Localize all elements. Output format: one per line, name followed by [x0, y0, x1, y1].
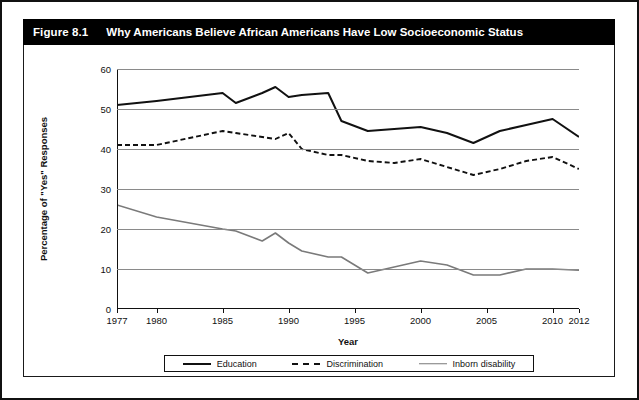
x-axis-tick-label: 2010 [542, 315, 563, 326]
y-axis-tick-label: 60 [100, 64, 111, 75]
x-axis-tick [157, 309, 158, 313]
x-axis-tick-label: 2005 [476, 315, 497, 326]
x-axis-title: Year [117, 336, 579, 347]
x-axis-tick [421, 309, 422, 313]
legend-line-icon [419, 359, 447, 369]
legend-item: Education [183, 359, 257, 369]
grid-line [117, 229, 579, 230]
y-axis-tick-label: 10 [100, 264, 111, 275]
x-axis-tick [289, 309, 290, 313]
x-axis-tick [223, 309, 224, 313]
grid-line [117, 69, 579, 70]
y-axis-tick-label: 30 [100, 184, 111, 195]
figure-title: Why Americans Believe African Americans … [106, 26, 523, 38]
x-axis-tick [355, 309, 356, 313]
grid-line [117, 109, 579, 110]
y-axis-tick-label: 40 [100, 144, 111, 155]
y-axis-tick-label: 0 [106, 304, 111, 315]
x-axis-tick-label: 1995 [344, 315, 365, 326]
figure-title-bar: Figure 8.1 Why Americans Believe African… [23, 19, 615, 45]
chart-legend: EducationDiscriminationInborn disability [164, 355, 534, 372]
x-axis-tick-label: 2000 [410, 315, 431, 326]
grid-line [117, 269, 579, 270]
chart-container: Percentage of "Yes" Responses 0102030405… [23, 45, 615, 377]
x-axis-tick [579, 309, 580, 313]
legend-line-icon [292, 359, 320, 369]
legend-item: Inborn disability [419, 359, 516, 369]
y-axis-title: Percentage of "Yes" Responses [38, 69, 52, 309]
legend-label: Education [217, 359, 257, 369]
x-axis-tick [553, 309, 554, 313]
legend-label: Discrimination [326, 359, 383, 369]
legend-line-icon [183, 359, 211, 369]
x-axis-tick-label: 1977 [106, 315, 127, 326]
x-axis-tick-label: 1985 [212, 315, 233, 326]
plot-area: 0102030405060 19771980198519901995200020… [117, 69, 579, 309]
x-axis-tick-label: 1990 [278, 315, 299, 326]
figure-number-label: Figure 8.1 [33, 26, 88, 38]
y-axis-tick-label: 50 [100, 104, 111, 115]
y-axis-tick-label: 20 [100, 224, 111, 235]
x-axis-tick-label: 1980 [146, 315, 167, 326]
figure-page: Figure 8.1 Why Americans Believe African… [0, 0, 639, 400]
legend-item: Discrimination [292, 359, 383, 369]
legend-label: Inborn disability [453, 359, 516, 369]
x-axis-tick [117, 309, 118, 313]
x-axis-tick-label: 2012 [568, 315, 589, 326]
x-axis-tick [487, 309, 488, 313]
grid-line [117, 189, 579, 190]
grid-line [117, 149, 579, 150]
